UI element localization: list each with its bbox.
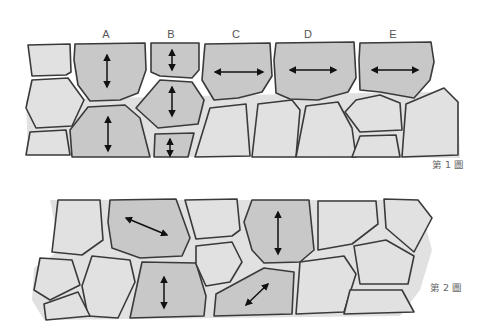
cell-light: [26, 78, 84, 128]
column-label-a: A: [102, 28, 110, 40]
cell-light: [28, 44, 71, 76]
cell-light: [344, 290, 414, 314]
cell-a-upper: [74, 43, 146, 101]
cell-b-bottom: [154, 133, 194, 157]
cell-bottom-left-dark: [130, 262, 206, 318]
column-label-e: E: [389, 28, 396, 40]
figure-1-caption: 第 1 圖: [432, 159, 464, 170]
figure-2-caption: 第 2 圖: [430, 282, 462, 293]
cell-top-left-dark: [108, 199, 190, 258]
figure-1: A B C D E 第 1 圖: [26, 28, 464, 170]
column-label-b: B: [167, 28, 174, 40]
cell-light: [352, 135, 400, 157]
column-label-d: D: [304, 28, 312, 40]
column-label-c: C: [232, 28, 240, 40]
figure-2: 第 2 圖: [32, 199, 462, 320]
cell-b-top: [151, 43, 199, 78]
cell-top-right-dark: [244, 200, 314, 263]
cell-d-top: [274, 42, 356, 100]
cell-light: [26, 130, 70, 155]
cell-light: [252, 100, 300, 157]
cell-diagram: A B C D E 第 1 圖: [0, 0, 485, 331]
